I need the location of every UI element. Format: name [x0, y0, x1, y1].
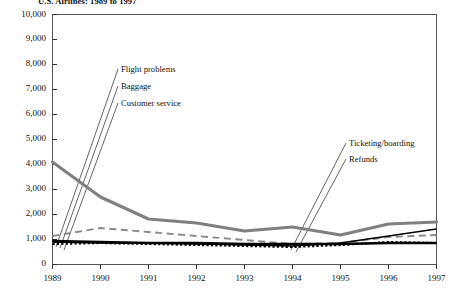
series-line-flight-problems	[53, 162, 437, 235]
x-axis-ticks	[53, 265, 437, 270]
line-chart: U.S. Airlines: 1989 to 1997 10,000 9,000…	[0, 0, 454, 289]
annotation-label-customer-service: Customer service	[121, 99, 181, 108]
annotation-label-baggage: Baggage	[121, 82, 151, 91]
x-tick-label: 1993	[225, 274, 265, 283]
x-tick-label: 1991	[129, 274, 169, 283]
annotation-label-flight-problems: Flight problems	[121, 65, 176, 74]
annotation-label-refunds: Refunds	[349, 155, 378, 164]
x-tick-label: 1989	[33, 274, 73, 283]
x-tick-label: 1994	[273, 274, 313, 283]
y-axis-ticks	[53, 15, 58, 265]
x-tick-label: 1997	[417, 274, 454, 283]
x-tick-label: 1995	[321, 274, 361, 283]
x-tick-label: 1992	[177, 274, 217, 283]
annotation-label-ticketing-boarding: Ticketing/boarding	[349, 139, 415, 148]
x-tick-label: 1990	[81, 274, 121, 283]
x-tick-label: 1996	[369, 274, 409, 283]
series-lines	[53, 162, 437, 247]
